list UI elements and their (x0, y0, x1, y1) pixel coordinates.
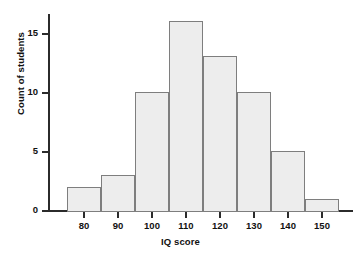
y-axis-line (48, 14, 50, 212)
x-axis-tick-130 (253, 212, 255, 218)
x-axis-title: IQ score (0, 236, 361, 247)
y-axis-tick-10 (42, 92, 49, 94)
y-axis-tick-label-5: 5 (0, 145, 38, 156)
y-axis-tick-0 (42, 210, 49, 212)
y-axis-tick-5 (42, 151, 49, 153)
bar-100 (135, 92, 169, 212)
bar-80 (67, 187, 101, 212)
x-axis-tick-label-150: 150 (302, 220, 342, 231)
bar-110 (169, 21, 203, 212)
y-axis-tick-label-10: 10 (0, 86, 38, 97)
histogram-chart: Count of students 0 5 10 15 80 90 100 11… (0, 0, 361, 259)
x-axis-tick-150 (321, 212, 323, 218)
y-axis-tick-label-0: 0 (0, 204, 38, 215)
y-axis-tick-15 (42, 33, 49, 35)
bar-130 (237, 92, 271, 212)
x-axis-tick-140 (287, 212, 289, 218)
bar-120 (203, 56, 237, 212)
x-axis-tick-80 (83, 212, 85, 218)
bar-150 (305, 199, 339, 212)
bar-140 (271, 151, 305, 212)
x-axis-tick-120 (219, 212, 221, 218)
x-axis-tick-90 (117, 212, 119, 218)
x-axis-tick-100 (151, 212, 153, 218)
y-axis-tick-label-15: 15 (0, 27, 38, 38)
x-axis-tick-110 (185, 212, 187, 218)
bar-90 (101, 175, 135, 212)
